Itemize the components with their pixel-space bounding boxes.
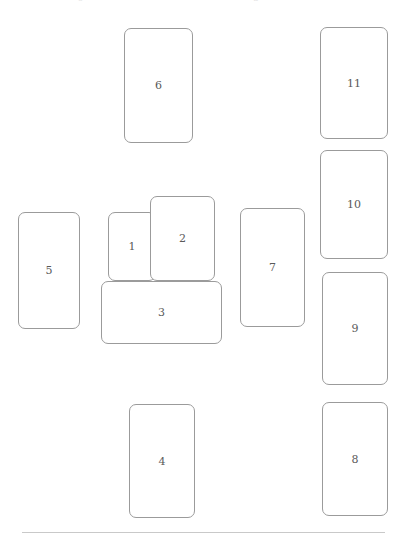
card-8[interactable]: 8	[322, 402, 388, 516]
card-label: 10	[347, 199, 361, 210]
card-5[interactable]: 5	[18, 212, 80, 329]
card-7[interactable]: 7	[240, 208, 305, 327]
card-label: 9	[352, 323, 359, 334]
clipped-text-fragment-left: o	[78, 0, 83, 3]
card-label: 8	[352, 454, 359, 465]
card-label: 1	[129, 241, 136, 252]
clipped-header-text: o u	[0, 0, 406, 4]
card-6[interactable]: 6	[124, 28, 193, 143]
card-10[interactable]: 10	[320, 150, 388, 259]
bottom-divider-rule	[22, 532, 385, 533]
card-4[interactable]: 4	[129, 404, 195, 518]
card-9[interactable]: 9	[322, 272, 388, 385]
card-3[interactable]: 3	[101, 281, 222, 344]
card-11[interactable]: 11	[320, 27, 388, 139]
card-1[interactable]: 1	[108, 212, 156, 281]
card-label: 11	[347, 78, 361, 89]
card-layout-canvas: o u 6111027159384	[0, 0, 406, 539]
card-label: 5	[46, 265, 53, 276]
card-label: 4	[159, 456, 166, 467]
card-label: 6	[155, 80, 162, 91]
card-label: 2	[179, 233, 186, 244]
clipped-text-fragment-right: u	[253, 0, 258, 3]
card-label: 3	[158, 307, 165, 318]
card-label: 7	[269, 262, 276, 273]
card-2[interactable]: 2	[150, 196, 215, 281]
